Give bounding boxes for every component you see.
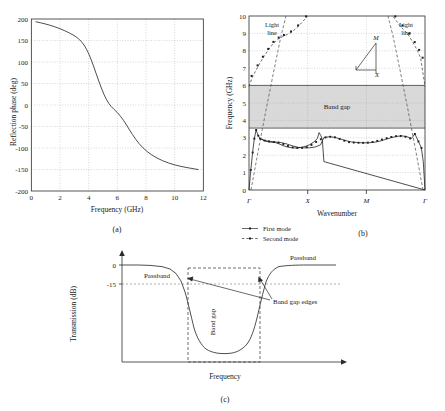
panel-a-reflection-phase: Reflection phase (deg): [0, 0, 222, 240]
panel-c-transmission-schematic: Transmission (dB) 0 -15 Passband Passban…: [60, 244, 400, 411]
panel-a-xtick-2: 2: [58, 194, 62, 202]
panel-b-ylabel: Frequency (GHz): [225, 76, 234, 129]
panel-b-ytick-8: 8: [243, 47, 247, 55]
panel-a-xtick-12: 12: [200, 194, 208, 202]
panel-c-xlabel: Frequency: [209, 372, 241, 381]
panel-b-band-gap-label: Band gap: [324, 103, 351, 111]
panel-b-inset-m-label: M: [372, 34, 379, 41]
panel-b-legend-first-mode-label: First mode: [263, 225, 291, 232]
panel-c-band-gap-edge-leaders: [187, 276, 272, 300]
panel-c-passband-left-label: Passband: [144, 272, 171, 280]
panel-b-ytick-6: 6: [243, 82, 247, 90]
panel-c-band-gap-box: [188, 268, 260, 362]
panel-b-first-mode-curve-mid: [324, 134, 425, 190]
panel-b-ytick-4: 4: [243, 117, 247, 125]
panel-b-dispersion-diagram: Frequency (GHz): [218, 0, 445, 245]
panel-b-ytick-10: 10: [239, 13, 247, 21]
panel-a-ytick-0: 0: [25, 102, 29, 110]
figure-container: Reflection phase (deg): [0, 0, 445, 411]
panel-b-ytick-3: 3: [243, 134, 247, 142]
panel-b-legend-second-mode-label: Second mode: [263, 235, 298, 242]
panel-b-ytick-1: 1: [243, 169, 247, 177]
panel-b-ytick-2: 2: [243, 152, 247, 160]
panel-a-ytick-neg100: -100: [15, 145, 28, 153]
panel-b-inset-x-label: X: [374, 71, 380, 78]
panel-a-ytick-neg150: -150: [15, 166, 28, 174]
panel-b-ytick-7: 7: [243, 65, 247, 73]
panel-a-ytick-150: 150: [18, 37, 29, 45]
panel-c-yaxis-arrow-icon: [119, 250, 125, 256]
panel-c-passband-right-label: Passband: [290, 254, 317, 262]
panel-a-caption: (a): [113, 225, 122, 234]
panel-a-xtick-10: 10: [171, 194, 179, 202]
panel-c-ylabel: Transmission (dB): [69, 286, 78, 342]
panel-c-ytick-minus15: -15: [107, 281, 117, 289]
panel-c-ytick-0: 0: [113, 262, 117, 270]
panel-a-ytick-200: 200: [18, 16, 29, 24]
panel-b-xtick-m: M: [362, 197, 370, 205]
panel-a-ytick-neg200: -200: [15, 188, 28, 196]
panel-b-ytick-9: 9: [243, 30, 247, 38]
panel-b-first-mode-curve: [249, 130, 425, 190]
panel-b-xtick-gamma-left: Γ: [246, 197, 252, 205]
panel-a-xtick-0: 0: [30, 194, 34, 202]
panel-b-xtick-gamma-right: Γ: [422, 197, 428, 205]
panel-b-caption: (b): [358, 229, 368, 238]
panel-a-ytick-100: 100: [18, 59, 29, 67]
panel-a-xtick-6: 6: [116, 194, 120, 202]
panel-b-xtick-x: X: [305, 197, 311, 205]
panel-a-xtick-8: 8: [144, 194, 148, 202]
panel-c-band-gap-label: Band gap: [209, 308, 217, 335]
panel-a-xtick-4: 4: [87, 194, 91, 202]
panel-a-xlabel: Frequency (GHz): [91, 205, 144, 214]
panel-b-ytick-labels: 10 9 8 7 6 5 4 3 2 1 0: [239, 13, 247, 195]
panel-b-xtick-marks: [308, 190, 367, 194]
panel-c-band-gap-edges-label: Band gap edges: [273, 298, 318, 306]
panel-b-first-mode-curve-left-mid: [259, 138, 324, 148]
panel-b-xtick-labels: Γ X M Γ: [246, 197, 428, 205]
panel-a-reflection-phase-curve: [36, 22, 199, 170]
panel-b-brillouin-zone-inset: M X: [356, 34, 380, 78]
panel-a-ytick-neg50: -50: [19, 123, 29, 131]
panel-b-light-line-right-label-1: Light: [399, 21, 413, 28]
panel-b-light-line-left-label-1: Light: [265, 21, 279, 28]
panel-b-light-line-right-label-2: line: [401, 29, 411, 36]
panel-c-caption: (c): [221, 395, 230, 404]
panel-a-ytick-50: 50: [21, 80, 29, 88]
panel-a-ylabel: Reflection phase (deg): [9, 78, 18, 146]
panel-b-xlabel: Wavenumber: [317, 209, 357, 218]
panel-b-ytick-0: 0: [243, 187, 247, 195]
panel-c-xaxis-arrow-icon: [341, 359, 347, 365]
panel-a-xtick-labels: 0 2 4 6 8 10 12: [30, 194, 208, 202]
panel-b-light-line-left-label-2: line: [267, 29, 277, 36]
panel-b-legend: First mode Second mode: [242, 225, 298, 242]
panel-b-ytick-5: 5: [243, 100, 247, 108]
